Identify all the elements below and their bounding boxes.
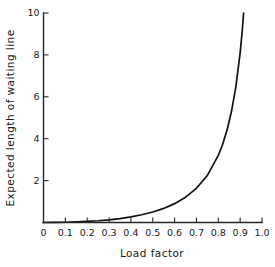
x-tick-label: 0.3 — [101, 227, 116, 238]
line-chart-svg: 00.10.20.30.40.50.60.70.80.91.0 246810 L… — [0, 0, 275, 267]
x-axis-tick-labels: 00.10.20.30.40.50.60.70.80.91.0 — [40, 227, 269, 238]
y-tick-label: 4 — [33, 133, 39, 144]
x-tick-label: 0.4 — [123, 227, 138, 238]
x-tick-label: 0.9 — [233, 227, 248, 238]
y-axis-ticks — [44, 13, 49, 181]
x-tick-label: 0 — [40, 227, 46, 238]
x-axis-title: Load factor — [120, 247, 184, 259]
x-tick-label: 0.7 — [189, 227, 204, 238]
x-tick-label: 0.1 — [58, 227, 73, 238]
y-tick-label: 2 — [33, 175, 39, 186]
y-tick-label: 10 — [27, 7, 39, 18]
x-tick-label: 0.6 — [167, 227, 182, 238]
x-tick-label: 0.8 — [211, 227, 226, 238]
y-tick-label: 8 — [33, 49, 39, 60]
x-tick-label: 0.2 — [80, 227, 95, 238]
y-tick-label: 6 — [33, 91, 39, 102]
y-axis-tick-labels: 246810 — [27, 7, 39, 186]
y-axis-title: Expected length of waiting line — [4, 29, 16, 206]
chart-figure: 00.10.20.30.40.50.60.70.80.91.0 246810 L… — [0, 0, 275, 267]
series-group — [44, 13, 244, 223]
waiting-line-curve — [44, 13, 244, 223]
x-tick-label: 1.0 — [254, 227, 269, 238]
x-tick-label: 0.5 — [145, 227, 160, 238]
